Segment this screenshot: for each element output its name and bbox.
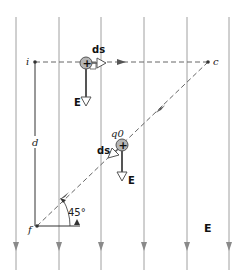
field-line	[56, 17, 62, 270]
point-c	[206, 60, 210, 64]
angle-label: 45°	[68, 207, 86, 218]
charge-sign: +	[83, 57, 92, 70]
field-vector-arrow-icon	[117, 172, 127, 181]
field-line	[141, 17, 147, 270]
path-direction-arrow-icon	[117, 59, 126, 65]
electric-field-diagram: i c f d 45° E ds + E ds q0 + E	[0, 0, 246, 280]
point-i	[33, 60, 37, 64]
charge-sign: +	[119, 139, 128, 152]
field-vector-label: E	[74, 97, 81, 108]
point-i-label: i	[26, 56, 29, 67]
displacement-label: ds	[92, 44, 105, 55]
point-c-label: c	[213, 56, 219, 67]
angle-arrow-icon	[74, 219, 80, 225]
charge-diagonal: E ds q0 +	[97, 128, 135, 186]
charge-label: q0	[111, 128, 124, 139]
displacement-label: ds	[97, 145, 110, 156]
path-direction-arrow-icon	[155, 105, 165, 113]
field-line	[13, 17, 19, 270]
point-f-label: f	[27, 224, 34, 235]
field-line	[226, 17, 232, 270]
field-vector-label: E	[128, 175, 135, 186]
field-line	[184, 17, 190, 270]
field-vector-arrow-icon	[81, 97, 91, 106]
angle-arrow-icon	[60, 198, 66, 203]
distance-label: d	[32, 137, 38, 148]
field-label: E	[204, 222, 212, 235]
point-f	[35, 224, 39, 228]
